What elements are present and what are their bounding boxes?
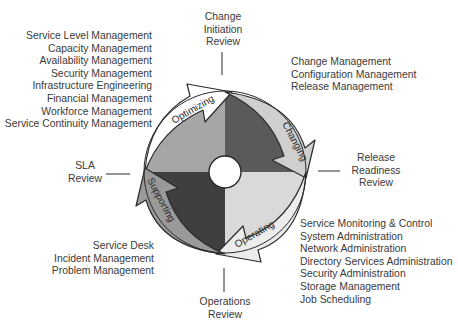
- release-readiness-review: Release Readiness Review: [340, 152, 412, 190]
- function-item: Problem Management: [40, 265, 154, 278]
- function-item: Service Desk: [40, 240, 154, 253]
- function-item: Service Level Management: [4, 30, 152, 43]
- function-item: Infrastructure Engineering: [4, 80, 152, 93]
- function-item: Network Administration: [300, 243, 452, 256]
- review-line: Operations: [192, 296, 258, 309]
- supporting-functions: Service Desk Incident Management Problem…: [40, 240, 154, 278]
- review-line: Change: [192, 11, 254, 24]
- change-initiation-review: Change Initiation Review: [192, 11, 254, 49]
- function-item: Capacity Management: [4, 43, 152, 56]
- function-item: Security Administration: [300, 268, 452, 281]
- review-line: Review: [192, 309, 258, 322]
- function-item: Job Scheduling: [300, 294, 452, 307]
- sla-review: SLA Review: [64, 160, 106, 185]
- function-item: Security Management: [4, 68, 152, 81]
- review-line: SLA: [64, 160, 106, 173]
- function-item: Service Continuity Management: [4, 118, 152, 131]
- review-line: Review: [192, 36, 254, 49]
- function-item: Financial Management: [4, 93, 152, 106]
- function-item: Directory Services Administration: [300, 256, 452, 269]
- function-item: System Administration: [300, 231, 452, 244]
- function-item: Incident Management: [40, 253, 154, 266]
- function-item: Change Management: [291, 56, 416, 69]
- review-line: Review: [64, 173, 106, 186]
- optimizing-functions: Service Level Management Capacity Manage…: [4, 30, 152, 131]
- function-item: Release Management: [291, 81, 416, 94]
- review-line: Initiation: [192, 24, 254, 37]
- center-hole: [209, 156, 241, 188]
- operations-review: Operations Review: [192, 296, 258, 321]
- function-item: Configuration Management: [291, 69, 416, 82]
- function-item: Workforce Management: [4, 106, 152, 119]
- function-item: Service Monitoring & Control: [300, 218, 452, 231]
- review-line: Readiness: [340, 165, 412, 178]
- function-item: Storage Management: [300, 281, 452, 294]
- function-item: Availability Management: [4, 55, 152, 68]
- changing-functions: Change Management Configuration Manageme…: [291, 56, 416, 94]
- review-line: Review: [340, 177, 412, 190]
- operating-functions: Service Monitoring & Control System Admi…: [300, 218, 452, 306]
- review-line: Release: [340, 152, 412, 165]
